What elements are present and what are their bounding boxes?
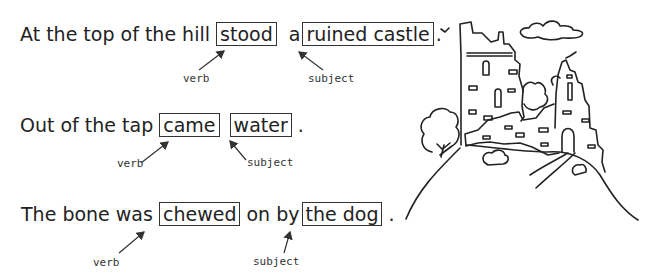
cloud-icon (520, 21, 582, 40)
right-tower (555, 60, 605, 172)
bird-icon (441, 28, 449, 32)
left-tower (460, 22, 524, 145)
arrow-icon (299, 52, 323, 70)
arrow-icon (119, 232, 144, 253)
tree-icon (523, 82, 548, 109)
arrow-icon (284, 232, 290, 253)
arrow-icon (230, 141, 246, 160)
castle-illustration (400, 0, 647, 278)
castle-door (562, 129, 574, 153)
arrow-icon (199, 51, 224, 70)
annotation-arrows (0, 0, 400, 278)
bush-icon (483, 150, 508, 165)
bush-icon (572, 165, 586, 175)
arrow-icon (141, 142, 168, 163)
bird-icon (566, 52, 576, 58)
